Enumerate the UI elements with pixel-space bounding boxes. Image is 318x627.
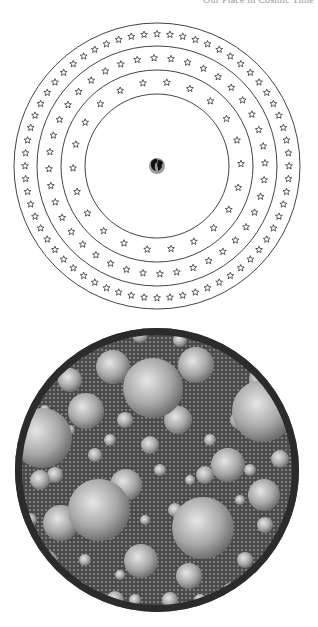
sphere <box>271 450 289 468</box>
sphere <box>104 434 116 446</box>
sphere <box>68 479 130 541</box>
sphere <box>141 436 159 454</box>
sphere <box>235 495 245 505</box>
sphere <box>253 338 267 352</box>
sphere <box>30 470 50 490</box>
sphere-field-figure <box>0 0 318 627</box>
sphere <box>124 544 158 578</box>
sphere <box>115 570 125 580</box>
sphere <box>237 552 253 568</box>
sphere <box>68 393 104 429</box>
sphere <box>79 554 91 566</box>
sphere <box>117 412 133 428</box>
sphere <box>54 344 66 356</box>
sphere <box>178 347 214 383</box>
sphere <box>88 448 102 462</box>
sphere <box>294 504 306 516</box>
sphere <box>185 475 195 485</box>
sphere <box>204 434 216 446</box>
sphere <box>271 561 289 579</box>
sphere <box>154 464 166 476</box>
sphere <box>172 497 234 559</box>
sphere <box>196 466 214 484</box>
sphere <box>211 448 245 482</box>
sphere <box>176 563 202 589</box>
sphere <box>140 515 150 525</box>
sphere <box>217 324 239 346</box>
sphere <box>257 517 273 533</box>
sphere <box>248 479 280 511</box>
sphere <box>21 591 39 609</box>
sphere <box>123 358 183 418</box>
sphere <box>244 464 256 476</box>
